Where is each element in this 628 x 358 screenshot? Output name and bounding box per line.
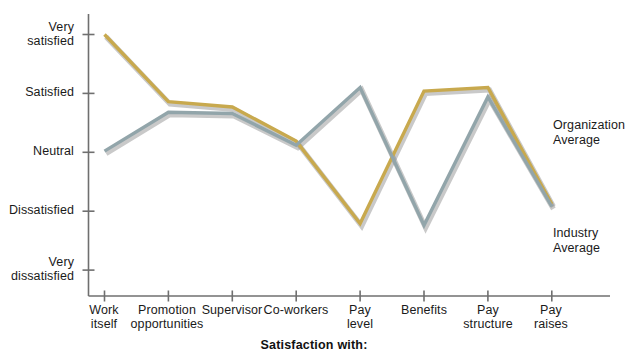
series-shadow [106, 37, 553, 226]
legend-industry-average: Industry Average [553, 226, 600, 255]
y-tick-label-very-satisfied: Very satisfied [0, 21, 74, 48]
y-tick-label-very-dissatisfied: Very dissatisfied [0, 256, 74, 283]
y-tick-label-neutral: Neutral [0, 145, 74, 159]
chart-axes [89, 14, 611, 296]
satisfaction-line-chart: Very satisfied Satisfied Neutral Dissati… [0, 0, 628, 358]
legend-organization-average: Organization Average [553, 118, 625, 147]
series-line-organization-average [105, 35, 552, 224]
series-line-layer [105, 35, 552, 226]
series-shadow [106, 90, 553, 228]
x-axis-title: Satisfaction with: [0, 338, 628, 352]
y-tick-label-dissatisfied: Dissatisfied [0, 204, 74, 218]
y-tick-label-satisfied: Satisfied [0, 86, 74, 100]
x-tick-label-pay-raises: Pay raises [510, 303, 592, 331]
series-shadow-layer [106, 37, 553, 228]
